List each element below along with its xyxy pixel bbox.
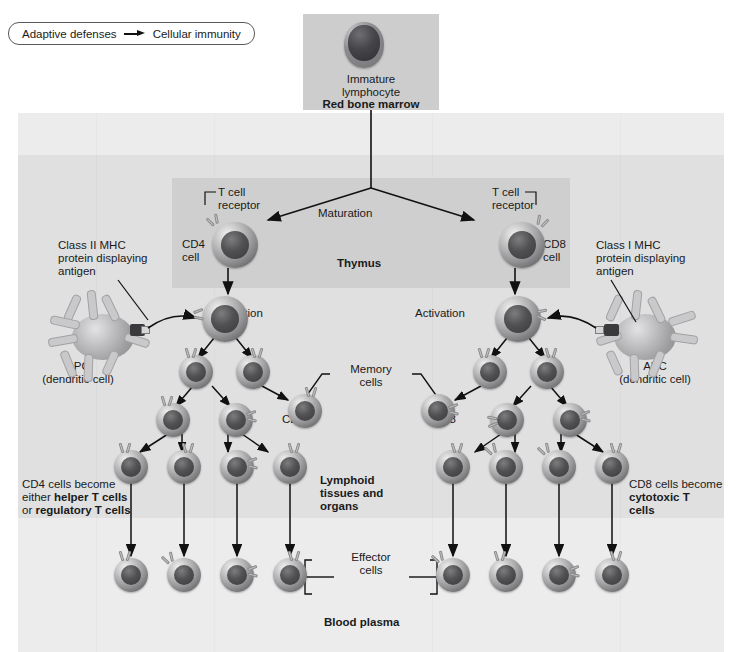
cd8-clone-cell [436,450,470,484]
cell-nucleus [508,231,536,259]
cellular-immunity-diagram: Adaptive defenses Cellular immunity Imma… [0,0,741,652]
cd4-effector-cell [114,558,148,592]
cd8-naive-cell [499,222,545,268]
cd4-clone-cell [273,450,307,484]
t-cell-receptor-icon [120,442,132,453]
cell-nucleus [428,401,448,421]
t-cell-receptor-icon [306,386,318,397]
cd4-clone-cell [236,355,270,389]
t-cell-receptor-icon [186,347,198,358]
t-cell-receptor-icon [247,458,259,471]
cd8-effector-cell [436,558,470,592]
cd8-clone-cell [530,355,564,389]
t-cell-receptor-icon [479,347,491,358]
cell-nucleus [443,457,463,477]
cell-nucleus [227,565,247,585]
cd4-clone-cell [156,403,190,437]
connector-lines [0,0,741,652]
t-cell-receptor-icon [546,347,558,358]
cell-nucleus [497,410,517,430]
cd4-clone-cell [220,450,254,484]
cd8-effector-cell [489,558,523,592]
cell-nucleus [163,410,183,430]
cell-nucleus [227,457,247,477]
cd4-effector-cell [220,558,254,592]
cell-nucleus [280,565,300,585]
t-cell-receptor-icon [289,442,301,453]
cd8-effector-cell [542,558,576,592]
t-cell-receptor-icon [252,347,264,358]
cell-nucleus [226,410,246,430]
cd4-effector-cell [273,558,307,592]
t-cell-receptor-icon [448,404,460,417]
cell-nucleus [480,362,500,382]
cell-nucleus [496,565,516,585]
cell-nucleus [121,565,141,585]
cell-nucleus [280,457,300,477]
t-cell-receptor-icon [247,566,259,579]
t-cell-receptor-icon [246,411,258,424]
t-cell-receptor-icon [611,550,623,561]
cd8-clone-cell [542,450,576,484]
cd4-naive-cell [212,222,258,268]
cell-nucleus [602,565,622,585]
cell-nucleus [211,305,239,333]
cell-nucleus [243,362,263,382]
cell-nucleus [560,410,580,430]
cell-nucleus [295,401,315,421]
cell-nucleus [549,457,569,477]
cell-nucleus [504,305,532,333]
cd4-clone-cell [219,403,253,437]
cd8-activated-cell [495,296,541,342]
cell-nucleus [174,457,194,477]
cd8-clone-cell [489,450,523,484]
t-cell-receptor-icon [120,550,132,561]
cd4-effector-cell [167,558,201,592]
t-cell-receptor-icon [183,442,195,453]
cd8-clone-cell [473,355,507,389]
cd8-effector-cell [595,558,629,592]
cd4-clone-cell [114,450,148,484]
t-cell-receptor-icon [486,414,498,427]
t-cell-receptor-icon [162,395,174,406]
t-cell-receptor-icon [580,411,592,424]
cell-nucleus [602,457,622,477]
t-cell-receptor-icon [611,442,623,453]
cell-nucleus [221,231,249,259]
cell-nucleus [121,457,141,477]
cell-nucleus [174,565,194,585]
t-cell-receptor-icon [495,550,507,561]
t-cell-receptor-icon [452,442,464,453]
cd8-clone-cell [553,403,587,437]
t-cell-receptor-icon [569,566,581,579]
cd4-clone-cell [167,450,201,484]
cd8-clone-cell [595,450,629,484]
cell-nucleus [549,565,569,585]
cd4-clone-cell [179,355,213,389]
cell-nucleus [186,362,206,382]
t-cell-receptor-icon [193,309,205,322]
cd4-activated-cell [202,296,248,342]
cd4-memory-cell [288,394,322,428]
t-cell-receptor-icon [289,550,301,561]
cell-nucleus [443,565,463,585]
cd8-clone-cell [490,403,524,437]
cd8-memory-cell [421,394,455,428]
t-cell-receptor-icon [536,309,548,322]
cell-nucleus [496,457,516,477]
cell-nucleus [537,362,557,382]
